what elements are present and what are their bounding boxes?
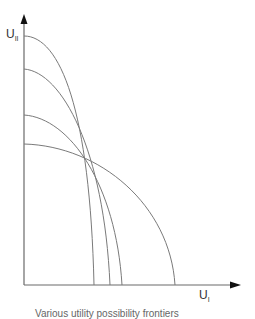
figure-caption: Various utility possibility frontiers xyxy=(35,308,179,319)
x-axis-arrow-icon xyxy=(230,282,241,289)
frontier-curve-2 xyxy=(24,69,110,285)
frontier-curve-3 xyxy=(24,115,122,285)
x-axis-label: UI xyxy=(199,289,210,303)
frontier-curve-4 xyxy=(24,144,175,285)
y-axis-label: UII xyxy=(6,28,19,42)
y-axis-arrow-icon xyxy=(21,14,28,24)
frontier-curve-1 xyxy=(24,36,94,285)
